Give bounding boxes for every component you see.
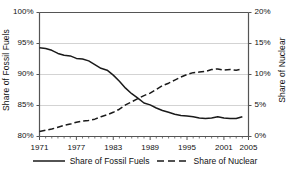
y-tick-label-right: 20% [255,7,285,16]
x-tick-label: 1977 [59,143,93,152]
axis-ticks [37,13,252,141]
legend-solid-line-icon [32,157,66,165]
legend-item-1: Share of Fossil Fuels [32,156,150,166]
y-tick-label-left: 100% [4,7,34,16]
x-tick-label: 2005 [232,143,266,152]
y-tick-label-left: 95% [4,38,34,47]
legend-dashed-line-icon [156,157,190,165]
y-tick-label-right: 5% [255,100,285,109]
legend-label: Share of Fossil Fuels [70,156,150,166]
y-tick-label-right: 10% [255,69,285,78]
y-tick-label-right: 15% [255,38,285,47]
series-line-1 [40,48,243,119]
x-tick-label: 1971 [23,143,57,152]
y-tick-label-right: 0% [255,131,285,140]
y-tick-label-left: 90% [4,69,34,78]
y-tick-label-left: 85% [4,100,34,109]
x-tick-label: 1983 [96,143,130,152]
chart-container: Share of Fossil Fuels Share of Nuclear 8… [0,0,289,175]
x-tick-label: 1989 [133,143,167,152]
data-series [40,48,243,132]
y-tick-label-left: 80% [4,131,34,140]
legend-item-2: Share of Nuclear [156,156,258,166]
chart-legend: Share of Fossil FuelsShare of Nuclear [0,156,289,166]
x-tick-label: 1995 [170,143,204,152]
legend-label: Share of Nuclear [194,156,258,166]
